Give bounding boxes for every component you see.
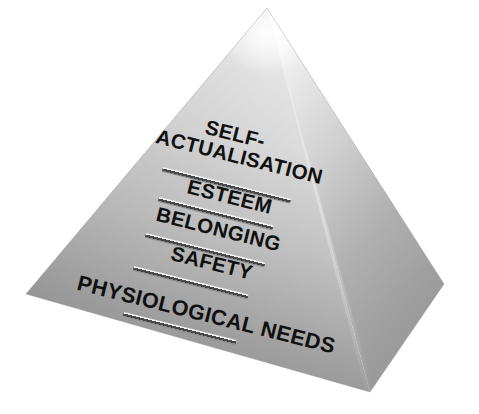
pyramid-diagram-canvas: SELF- ACTUALISATION ESTEEM BELONGING SAF… — [0, 0, 479, 414]
